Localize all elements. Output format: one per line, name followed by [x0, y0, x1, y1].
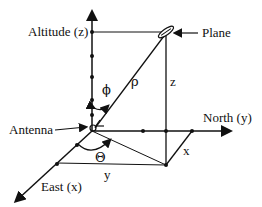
- coordinate-diagram: Altitude (z) Plane North (y) East (x) An…: [0, 0, 262, 207]
- antenna-pointer: [55, 127, 86, 130]
- z-label: z: [170, 74, 176, 89]
- rho-label: ρ: [131, 74, 139, 89]
- phi-label: ϕ: [102, 82, 111, 97]
- plane-label: Plane: [202, 25, 231, 40]
- north-label: North (y): [203, 110, 252, 125]
- y-label: y: [104, 167, 111, 182]
- altitude-label: Altitude (z): [28, 24, 88, 39]
- phi-arc: [94, 106, 108, 110]
- theta-arc: [78, 140, 110, 150]
- x-label: x: [183, 143, 190, 158]
- theta-label: Θ: [95, 150, 106, 165]
- y-line: [57, 163, 166, 165]
- east-label: East (x): [41, 179, 82, 194]
- antenna-label: Antenna: [9, 122, 53, 137]
